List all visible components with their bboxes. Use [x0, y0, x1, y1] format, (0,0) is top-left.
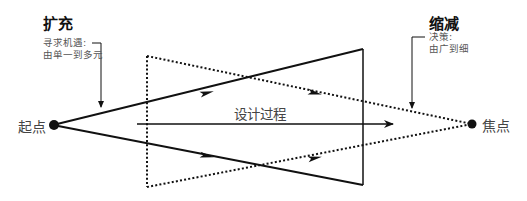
divergent-triangle [53, 49, 363, 185]
expand-title: 扩充 [43, 12, 73, 33]
convergent-direction-arrows [308, 89, 323, 163]
reduce-leader-line [412, 37, 425, 108]
expand-caption-line1: 寻求机遇: [43, 37, 86, 49]
convergent-triangle [147, 56, 472, 187]
start-point-dot [49, 120, 59, 130]
reduce-caption-line2: 由广到细 [429, 43, 469, 55]
expand-caption-line2: 由单一到多元 [43, 49, 103, 61]
reduce-title: 缩减 [429, 12, 459, 33]
focus-point-label: 焦点 [482, 115, 510, 135]
reduce-caption-line1: 决策: [429, 31, 452, 43]
design-process-label: 设计过程 [234, 103, 286, 123]
start-point-label: 起点 [18, 116, 46, 136]
focus-point-dot [468, 120, 477, 129]
